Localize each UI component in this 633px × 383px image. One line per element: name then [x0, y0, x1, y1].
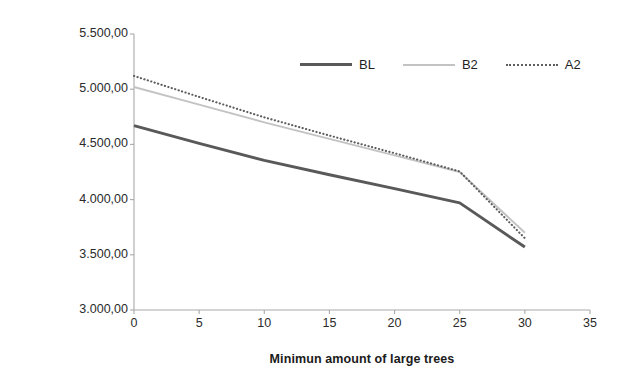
- legend-line-icon-b2: [403, 59, 455, 71]
- legend-label-bl: BL: [359, 57, 375, 72]
- legend-item-a2[interactable]: A2: [506, 57, 581, 72]
- series-line-a2: [134, 76, 525, 238]
- series-line-bl: [134, 126, 525, 247]
- legend-line-icon-bl: [300, 59, 352, 71]
- legend-line-icon-a2: [506, 59, 558, 71]
- line-chart: NPV of benefits over 150 years (€) 3.000…: [0, 0, 633, 383]
- series-line-b2: [134, 87, 525, 233]
- x-tick-label: 30: [505, 316, 545, 330]
- legend-label-a2: A2: [565, 57, 581, 72]
- legend: BL B2 A2: [300, 57, 581, 72]
- x-tick-label: 10: [244, 316, 284, 330]
- x-tick-label: 35: [570, 316, 610, 330]
- x-axis-title: Minimun amount of large trees: [134, 352, 590, 366]
- legend-label-b2: B2: [462, 57, 478, 72]
- legend-item-bl[interactable]: BL: [300, 57, 375, 72]
- x-tick-label: 15: [309, 316, 349, 330]
- legend-item-b2[interactable]: B2: [403, 57, 478, 72]
- x-tick-label: 0: [114, 316, 154, 330]
- x-tick-label: 5: [179, 316, 219, 330]
- x-tick-label: 20: [375, 316, 415, 330]
- x-tick-label: 25: [440, 316, 480, 330]
